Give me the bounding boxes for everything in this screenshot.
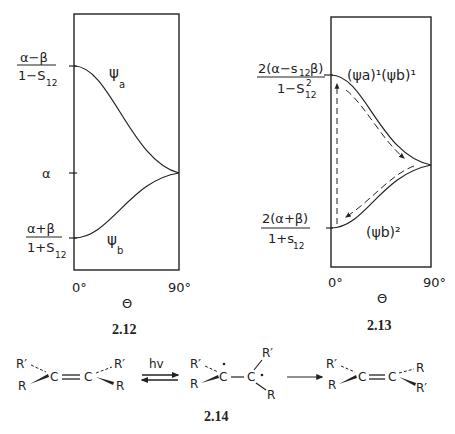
atom-c-radical: C [247, 370, 255, 384]
figure-number: 2.14 [204, 409, 229, 424]
hashed-bond [31, 365, 46, 372]
xlabel-start: 0° [72, 280, 87, 295]
ylabel-bot-denominator-sub: 12 [55, 250, 66, 260]
molecule-diradical: R′ R C C R′ R [190, 346, 275, 402]
ylabel-top-numerator-end: β) [310, 61, 323, 76]
wedge-bond [96, 377, 114, 385]
xlabel-axis: Θ [122, 296, 132, 311]
ylabel-bot-denominator: 1+s [268, 231, 294, 246]
atom-r: R [267, 388, 275, 402]
molecule-reactant: R′ R C C R′ R [16, 357, 125, 393]
ylabel-top-denominator-sub: 12 [46, 78, 57, 88]
atom-r: R [416, 361, 424, 375]
figure-canvas: α−β 1−S 12 α α+β 1+S 12 ψ a ψ b 0° 90° Θ… [0, 0, 455, 434]
ylabel-top-numerator: α−β [20, 50, 48, 65]
xlabel-start: 0° [328, 275, 343, 290]
curve-psi-a [74, 66, 179, 173]
molecule-product: R′ R C C R R′ [326, 357, 427, 395]
curve-label-lower: (ψb)² [366, 224, 401, 240]
ylabel-top-denominator: 1−S [18, 68, 45, 83]
figure-2-12: α−β 1−S 12 α α+β 1+S 12 ψ a ψ b 0° 90° Θ… [17, 14, 191, 337]
ylabel-top-numerator: 2(α−s [258, 61, 298, 76]
ylabel-bot-denominator: 1+S [27, 240, 54, 255]
atom-r-prime: R′ [114, 357, 125, 371]
radical-dot [223, 363, 226, 366]
atom-r-prime: R′ [16, 357, 27, 371]
curve-lower [331, 165, 431, 228]
atom-r: R [116, 379, 124, 393]
figure-2-14: R′ R C C R′ R hv R′ R C [16, 346, 427, 424]
xlabel-end: 90° [168, 280, 191, 295]
curve-psi-b [74, 173, 179, 238]
arrow-label-hv: hv [149, 357, 164, 371]
atom-c1: C [50, 370, 58, 384]
atom-r-prime: R′ [262, 346, 273, 360]
curve-upper [331, 75, 431, 165]
ylabel-top-denominator: 1−S [277, 81, 304, 96]
curve-label-psi-a-sub: a [119, 79, 125, 90]
wedge-bond [30, 374, 49, 384]
ylabel-top-denominator-sup: 2 [306, 78, 312, 88]
curve-label-psi-b-sub: b [117, 245, 123, 256]
ylabel-bot-numerator: α+β [27, 221, 55, 236]
atom-r: R [190, 377, 198, 391]
curve-label-psi-b: ψ [107, 231, 117, 249]
atom-c-radical: C [219, 370, 227, 384]
ylabel-top-denominator-sub: 12 [305, 90, 316, 100]
radical-dot [261, 374, 264, 377]
atom-r: R [18, 379, 26, 393]
figure-2-13: 2(α−s 12 β) 1−S 2 12 2(α+β) 1+s 12 (ψa)¹… [257, 17, 446, 333]
ylabel-bot-denominator-sub: 12 [293, 241, 304, 251]
xlabel-axis: Θ [377, 291, 387, 306]
plot-frame [74, 14, 179, 270]
atom-c2: C [388, 370, 396, 384]
atom-r-prime: R′ [416, 381, 427, 395]
curve-label-upper: (ψa)¹(ψb)¹ [347, 67, 416, 83]
atom-r: R [328, 378, 336, 392]
xlabel-end: 90° [423, 275, 446, 290]
atom-c1: C [358, 370, 366, 384]
atom-c2: C [84, 370, 92, 384]
dashed-arrow-down [346, 90, 404, 158]
dashed-arrow-back [346, 166, 414, 217]
figure-number: 2.12 [112, 322, 137, 337]
atom-r-prime: R′ [326, 357, 337, 371]
ylabel-bot-numerator: 2(α+β) [262, 211, 308, 226]
ylabel-mid: α [42, 166, 51, 181]
atom-r-prime: R′ [190, 357, 201, 371]
figure-number: 2.13 [367, 318, 392, 333]
curve-label-psi-a: ψ [109, 64, 119, 82]
hashed-bond [96, 367, 112, 373]
equilibrium-arrow: hv [142, 357, 178, 380]
